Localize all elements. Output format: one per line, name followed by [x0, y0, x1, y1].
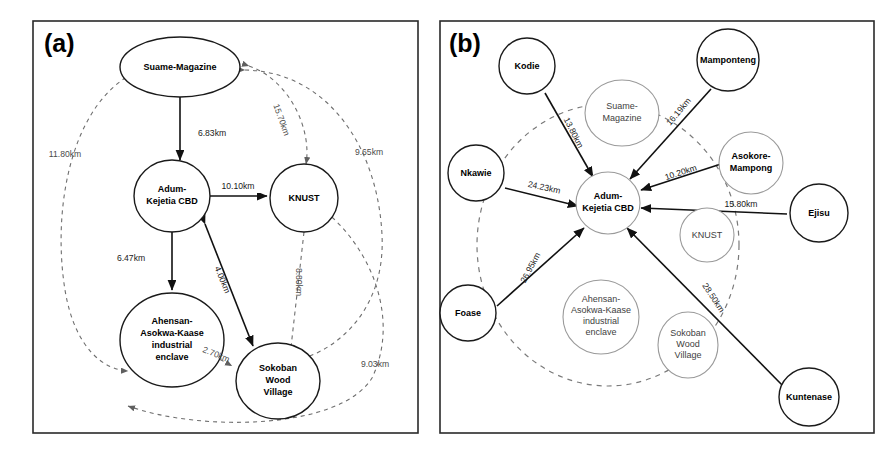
- node-mamponteng-label: Mamponteng: [700, 55, 756, 65]
- node-kodie-label: Kodie: [514, 61, 539, 71]
- node-ejisu-label: Ejisu: [808, 208, 830, 218]
- node-suame-magazine-label: Suame-Magazine: [143, 62, 216, 72]
- dist-label-knust-sokoban: 8.80km: [294, 268, 304, 296]
- node-knust-inner-label: KNUST: [692, 230, 723, 240]
- node-foase-label: Foase: [455, 308, 481, 318]
- panel-a-tag: (a): [44, 29, 75, 57]
- diagram-svg: (a) Suame-Magazine Adum-Kejetia CBD KNUS…: [0, 0, 895, 453]
- panel-b-tag: (b): [449, 29, 481, 57]
- dist-label-knust-ahensan: 9.03km: [361, 359, 389, 369]
- dist-label-mamponteng: 16.19km: [664, 96, 693, 128]
- dist-label-ejisu: 15.80km: [725, 199, 758, 209]
- node-kuntenase-label: Kuntenase: [786, 392, 832, 402]
- dist-label-asokore-mampong: 10.20km: [664, 162, 698, 182]
- dist-label-adum-ahensan: 6.47km: [117, 253, 145, 263]
- node-knust-label: KNUST: [289, 193, 321, 203]
- dist-label-suame-ahensan: 11.80km: [49, 149, 81, 159]
- node-nkawie-label: Nkawie: [460, 168, 491, 178]
- dist-label-nkawie: 24.23km: [527, 179, 561, 196]
- dist-label-kuntenase: 28.50km: [700, 281, 726, 314]
- dist-label-suame-knust: 15.70km: [271, 103, 292, 137]
- dist-label-adum-knust: 10.10km: [222, 181, 255, 191]
- dist-label-suame-sokoban: 9.65km: [355, 147, 383, 157]
- dist-label-suame-adum: 6.83km: [198, 128, 226, 138]
- dist-label-adum-sokoban: 4.00km: [213, 265, 233, 295]
- figure-canvas: (a) Suame-Magazine Adum-Kejetia CBD KNUS…: [0, 0, 895, 453]
